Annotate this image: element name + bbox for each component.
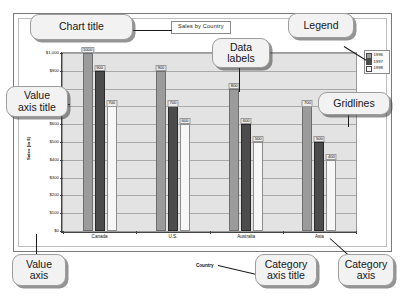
callout-chart-title: Chart title [30, 14, 133, 40]
value-axis [61, 52, 62, 233]
bar-asia-1997: 500 [314, 142, 324, 231]
data-label: 500 [253, 136, 264, 142]
callout-legend-label: Legend [303, 20, 338, 32]
legend-label-1998: 1998 [374, 66, 383, 70]
legend-swatch-1998 [366, 66, 372, 72]
bar-us-1998: 600 [180, 124, 190, 231]
value-axis-tick-label: $400 [49, 158, 59, 162]
category-axis-label: U.S. [168, 235, 177, 240]
category-axis-title: Country [196, 263, 214, 268]
callout-chart-title-label: Chart title [59, 21, 104, 33]
callout-category-axis-title: Category axis title [255, 254, 317, 286]
data-label: 600 [241, 118, 252, 124]
bar-asia-1996: 700 [302, 106, 312, 231]
callout-value-axis-line2: axis [30, 270, 49, 282]
data-label: 700 [167, 100, 178, 106]
callout-legend: Legend [288, 13, 354, 38]
category-axis-label: Australia [237, 235, 255, 240]
leader-data-labels [239, 66, 240, 92]
data-label: 400 [326, 154, 337, 160]
bar-canada-1998: 700 [107, 106, 117, 231]
callout-data-labels-line2: labels [227, 53, 254, 65]
bar-us-1996: 900 [156, 71, 166, 231]
category-axis [61, 232, 357, 233]
value-axis-tick-label: $500 [49, 140, 59, 144]
callout-category-axis: Category axis [338, 254, 394, 286]
leader-chart-title [130, 30, 172, 31]
data-label: 800 [229, 83, 240, 89]
category-axis-label: Canada [92, 235, 108, 240]
bar-asia-1998: 400 [326, 160, 336, 231]
value-axis-tick-label: $900 [49, 69, 59, 73]
value-axis-tick-label: $1,000 [46, 51, 59, 55]
callout-data-labels: Data labels [212, 38, 270, 68]
bar-canada-1997: 900 [95, 71, 105, 231]
callout-category-axis-title-line2: axis title [267, 270, 305, 282]
data-label: 600 [179, 118, 190, 124]
gridline [63, 89, 356, 90]
callout-value-axis-title-line1: Value [24, 90, 50, 102]
callout-category-axis-line2: axis [357, 270, 376, 282]
value-axis-tick-label: $100 [49, 211, 59, 215]
legend-item: 1997 [366, 59, 388, 65]
plot-area: $0$100$200$300$400$500$600$700$800$900$1… [62, 52, 357, 232]
bar-canada-1996: 1000 [83, 53, 93, 231]
chart-title: Sales by Country [171, 21, 231, 34]
data-label: 700 [106, 100, 117, 106]
gridline [63, 71, 356, 72]
data-label: 500 [314, 136, 325, 142]
legend-label-1997: 1997 [374, 60, 383, 64]
legend-item: 1996 [366, 53, 388, 59]
value-axis-tick-label: $600 [49, 122, 59, 126]
data-label: 700 [302, 100, 313, 106]
callout-gridlines-label: Gridlines [333, 98, 374, 110]
gridline [63, 53, 356, 54]
category-axis-label: Asia [315, 235, 324, 240]
callout-value-axis-title: Value axis title [6, 86, 68, 117]
value-axis-tick-label: $300 [49, 175, 59, 179]
data-label: 900 [94, 65, 105, 71]
value-axis-tick-label: $0 [54, 229, 59, 233]
bar-australia-1997: 600 [241, 124, 251, 231]
leader-legend [344, 46, 368, 62]
leader-category-axis-title [218, 265, 260, 277]
data-label: 900 [155, 65, 166, 71]
legend-label-1996: 1996 [374, 53, 383, 57]
callout-value-axis: Value axis [12, 254, 66, 286]
value-axis-tick-label: $200 [49, 193, 59, 197]
legend-item: 1998 [366, 66, 388, 72]
value-axis-title: Sales (in $) [26, 137, 31, 160]
bar-us-1997: 700 [168, 106, 178, 231]
callout-value-axis-title-line2: axis title [18, 102, 56, 114]
bar-australia-1998: 500 [253, 142, 263, 231]
data-label: 1000 [81, 47, 94, 53]
callout-gridlines: Gridlines [318, 92, 390, 115]
leader-gridlines [348, 113, 349, 127]
bar-australia-1996: 800 [229, 89, 239, 231]
